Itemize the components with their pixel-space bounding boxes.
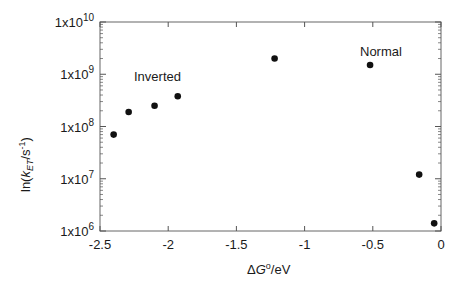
x-axis-label: ΔGo/eV	[247, 261, 291, 277]
y-axis-label-pre: ln(	[18, 177, 33, 192]
x-tick-label: -1	[299, 237, 311, 252]
data-point	[174, 93, 181, 100]
data-point	[125, 109, 132, 116]
x-tick-label: -0.5	[362, 237, 384, 252]
x-tick-label: -1.5	[225, 237, 247, 252]
data-point	[416, 171, 423, 178]
data-point	[151, 102, 158, 109]
y-axis-label-sup: -1	[17, 141, 27, 149]
data-point	[271, 55, 278, 62]
chart: -2.5-2-1.5-1-0.50 1x1061x1071x1081x1091x…	[0, 0, 459, 289]
data-point	[431, 220, 438, 227]
y-tick-label: 1x108	[60, 117, 94, 135]
annotation-normal: Normal	[360, 44, 402, 59]
y-axis-label-post: )	[18, 137, 33, 141]
y-tick-label: 1x109	[60, 64, 94, 82]
y-axis-tick-labels: 1x1061x1071x1081x1091x1010	[55, 12, 95, 239]
y-tick-label: 1x107	[60, 169, 94, 187]
x-tick-label: 0	[437, 237, 444, 252]
y-axis-label-mid: /s	[18, 149, 33, 160]
x-axis-tick-labels: -2.5-2-1.5-1-0.50	[89, 237, 445, 252]
x-axis-label-g: G	[256, 262, 266, 277]
data-point	[367, 62, 374, 69]
y-tick-label: 1x1010	[55, 12, 95, 30]
y-axis-label: ln(kET/s-1)	[17, 137, 35, 192]
x-tick-label: -2.5	[89, 237, 111, 252]
x-axis-label-delta: Δ	[247, 262, 256, 277]
data-point	[110, 131, 117, 138]
annotation-inverted: Inverted	[134, 69, 181, 84]
x-tick-label: -2	[162, 237, 174, 252]
x-axis-label-unit: /eV	[271, 262, 291, 277]
